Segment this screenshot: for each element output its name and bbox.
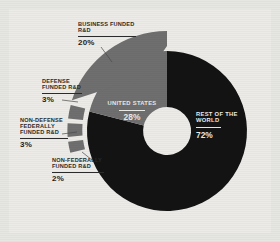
- label-business-funded-rd-name: Business Funded R&D: [78, 22, 136, 34]
- label-non-defense-federally-funded-rd-value: 3%: [20, 138, 68, 150]
- label-defense-funded-rd: Defense Funded R&D 3%: [42, 79, 82, 105]
- label-defense-funded-rd-name: Defense Funded R&D: [42, 79, 82, 91]
- label-non-federally-funded-rd-name: Non-Federally Funded R&D: [52, 158, 104, 170]
- label-defense-funded-rd-value: 3%: [42, 93, 82, 105]
- label-rest-of-the-world: Rest of the World 72%: [196, 111, 248, 141]
- ring-segment-non-defense-federally-funded-rd[interactable]: [67, 123, 82, 137]
- label-non-defense-federally-funded-rd: Non-Defense Federally Funded R&D 3%: [20, 118, 68, 150]
- ring-segment-non-federally-funded-rd[interactable]: [68, 140, 85, 153]
- label-united-states: United States 28%: [104, 100, 160, 124]
- label-united-states-value: 28%: [119, 110, 146, 123]
- label-non-federally-funded-rd: Non-Federally Funded R&D 2%: [52, 158, 104, 184]
- ring-segment-defense-funded-rd[interactable]: [68, 105, 85, 120]
- chart-root: Business Funded R&D 20% Defense Funded R…: [0, 0, 280, 242]
- label-non-defense-federally-funded-rd-name: Non-Defense Federally Funded R&D: [20, 118, 68, 136]
- label-business-funded-rd: Business Funded R&D 20%: [78, 22, 136, 48]
- label-rest-of-the-world-value: 72%: [196, 127, 221, 140]
- label-united-states-name: United States: [104, 100, 160, 106]
- label-rest-of-the-world-name: Rest of the World: [196, 111, 248, 124]
- label-business-funded-rd-value: 20%: [78, 36, 136, 48]
- label-non-federally-funded-rd-value: 2%: [52, 172, 104, 184]
